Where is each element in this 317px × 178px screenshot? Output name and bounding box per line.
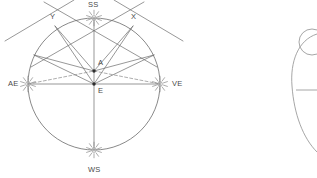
sun-icon-ss-ray: [89, 21, 92, 25]
sun-icon-ae-ray: [30, 77, 33, 81]
sun-icon-ae-ray: [31, 85, 36, 87]
sun-icon-ae-ray: [23, 87, 26, 91]
label-point-y: Y: [50, 13, 55, 21]
sun-icon-ss-ray: [96, 11, 99, 15]
label-summer-solstice: SS: [88, 1, 98, 9]
sun-icon-ws-ray: [97, 147, 102, 149]
sun-icon-ve-ray: [162, 77, 165, 81]
label-winter-solstice: WS: [88, 166, 100, 174]
ray-e-to-y: [55, 26, 94, 84]
inset-small-circle: [299, 29, 317, 55]
label-point-x: X: [131, 13, 136, 21]
center-point-e: [92, 82, 95, 85]
dashed-a-to-ve: [94, 71, 160, 84]
sun-icon-ws-ray: [97, 151, 102, 153]
sun-icon-ss-ray: [86, 19, 91, 21]
sun-icon-ss-ray: [97, 15, 102, 17]
label-autumnal-equinox: AE: [8, 80, 18, 88]
sun-icon-ve-ray: [163, 85, 168, 87]
extension-right-upper: [114, 0, 183, 41]
sun-icon-ss-ray: [89, 11, 92, 15]
sun-icon-ws-ray: [96, 153, 99, 157]
sun-icon-ae-ray: [20, 85, 25, 87]
sun-icon-ss-ray: [97, 19, 102, 21]
sun-icon-ss-ray: [96, 21, 99, 25]
sun-icon-ae-ray: [20, 81, 25, 83]
sun-icon-ve-ray: [155, 87, 158, 91]
extension-left-upper: [5, 0, 74, 41]
label-point-a: A: [98, 59, 103, 67]
astronomy-diagram-svg: [0, 0, 317, 178]
ray-a-to-left: [34, 55, 94, 71]
ray-e-to-x: [94, 26, 133, 84]
sun-icon-ve-ray: [152, 85, 157, 87]
partial-figure-right: [292, 29, 317, 152]
ray-e-to-left: [34, 55, 94, 84]
sun-icon-ve-ray: [163, 81, 168, 83]
sun-icon-ae-ray: [30, 87, 33, 91]
sun-icon-ws-ray: [86, 147, 91, 149]
sun-icon-ws-ray: [86, 151, 91, 153]
inset-arc: [292, 34, 317, 152]
sun-icon-ss-ray: [86, 15, 91, 17]
sun-icon-ws-ray: [96, 143, 99, 147]
sun-icon-ve-ray: [162, 87, 165, 91]
dashed-ae-to-a: [28, 71, 94, 84]
label-vernal-equinox: VE: [172, 80, 182, 88]
ray-a-to-y: [55, 26, 94, 71]
offset-point-a: [92, 69, 95, 72]
label-point-e: E: [98, 87, 103, 95]
sun-icon-ve-ray: [155, 77, 158, 81]
sun-icon-ws-ray: [89, 143, 92, 147]
diagram-canvas: SSWSAEVEXYAE: [0, 0, 317, 178]
sun-icon-ae-ray: [23, 77, 26, 81]
sun-icon-ws-ray: [89, 153, 92, 157]
